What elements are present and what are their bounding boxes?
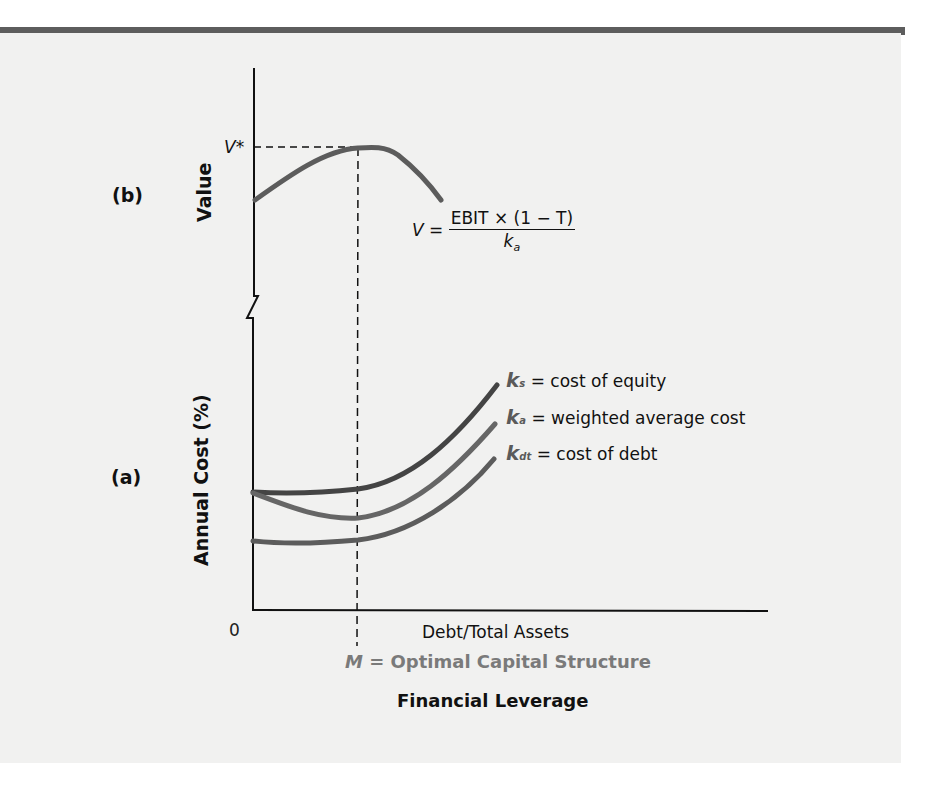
panel-label-b: (b) xyxy=(112,184,143,206)
legend-item-kdt: kdt = cost of debt xyxy=(506,441,658,465)
ka-curve xyxy=(253,424,495,518)
y-axis xyxy=(247,68,258,611)
legend-text: = weighted average cost xyxy=(526,408,745,428)
value-curve xyxy=(255,147,441,200)
legend-subscript: dt xyxy=(519,451,531,462)
chart-canvas xyxy=(0,0,951,794)
formula-equals: = xyxy=(424,220,449,240)
x-axis xyxy=(252,610,768,611)
panel-label-a: (a) xyxy=(111,466,141,488)
origin-tick-label: 0 xyxy=(229,620,240,640)
x-axis-label: Debt/Total Assets xyxy=(422,622,569,642)
formula-den-k: k xyxy=(504,231,514,251)
formula-numerator: EBIT × (1 − T) xyxy=(449,208,575,230)
cost-axis-title: Annual Cost (%) xyxy=(190,394,212,566)
legend-symbol: k xyxy=(506,441,519,465)
optimal-text: = Optimal Capital Structure xyxy=(363,651,651,672)
legend-symbol: k xyxy=(506,405,519,429)
value-formula: V = EBIT × (1 − T)ka xyxy=(412,208,575,254)
optimal-dashed-line xyxy=(357,148,358,646)
legend-text: = cost of equity xyxy=(525,371,666,391)
formula-lhs: V xyxy=(412,220,424,240)
optimal-m: M xyxy=(345,651,363,672)
kdt-curve xyxy=(253,459,494,543)
v-star-label: V* xyxy=(224,137,244,157)
financial-leverage-title: Financial Leverage xyxy=(397,690,588,711)
formula-fraction: EBIT × (1 − T)ka xyxy=(449,208,575,254)
legend-text: = cost of debt xyxy=(531,444,657,464)
ks-curve xyxy=(253,385,497,493)
value-axis-title: Value xyxy=(193,163,215,222)
legend-symbol: k xyxy=(506,368,519,392)
formula-den-sub: a xyxy=(513,241,520,254)
optimal-structure-label: M = Optimal Capital Structure xyxy=(345,651,651,672)
formula-denominator: ka xyxy=(449,230,575,254)
legend-item-ks: ks = cost of equity xyxy=(506,368,666,392)
legend-item-ka: ka = weighted average cost xyxy=(506,405,745,429)
